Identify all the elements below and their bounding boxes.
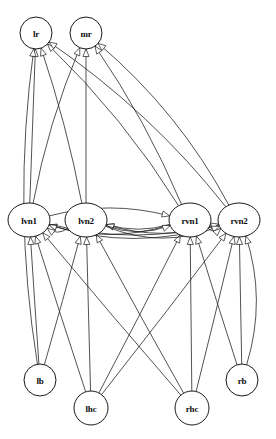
node-lr[interactable]: lr: [20, 17, 52, 49]
node-label-lr: lr: [33, 29, 39, 39]
node-lb[interactable]: lb: [24, 364, 56, 396]
node-rvn2[interactable]: rvn2: [218, 203, 260, 237]
node-mr[interactable]: mr: [70, 17, 102, 49]
node-label-rb: rb: [238, 376, 247, 386]
arrowhead-icon: [74, 48, 80, 56]
arrowhead-icon: [162, 225, 170, 231]
arrowhead-icon: [219, 233, 226, 241]
node-rvn1[interactable]: rvn1: [169, 203, 211, 237]
node-label-rvn2: rvn2: [230, 216, 248, 226]
edge-lvn1-to-mr: [33, 48, 80, 204]
edge-lvn2-to-lr: [41, 48, 82, 203]
node-label-mr: mr: [80, 29, 91, 39]
arrowhead-icon: [229, 236, 235, 244]
arrowhead-icon: [162, 211, 170, 217]
graph-diagram: lrmrlvn1lvn2rvn1rvn2lblhcrhcrb: [0, 0, 276, 439]
arrowhead-icon: [83, 49, 89, 57]
arrowhead-icon: [41, 48, 47, 56]
edge-rhc-to-rvn1: [190, 237, 192, 391]
node-label-lb: lb: [36, 376, 43, 386]
arrowhead-icon: [174, 235, 180, 243]
edge-rb-to-rvn2: [239, 237, 241, 364]
node-lvn1[interactable]: lvn1: [8, 203, 50, 237]
node-rhc[interactable]: rhc: [175, 391, 209, 425]
node-label-lhc: lhc: [86, 404, 97, 414]
edge-rb-to-rvn1: [196, 236, 237, 365]
arrowhead-icon: [84, 237, 90, 245]
edge-rvn1-to-lr: [48, 44, 179, 206]
arrowhead-icon: [35, 236, 41, 244]
node-label-lvn2: lvn2: [78, 216, 94, 226]
edge-rvn2-to-mr: [98, 43, 229, 205]
edge-rvn1-to-mr: [95, 46, 182, 204]
arrowhead-icon: [187, 237, 193, 245]
edge-rhc-to-rvn2: [196, 236, 234, 391]
node-label-lvn1: lvn1: [21, 216, 37, 226]
edge-rb-to-rvn2: [246, 236, 257, 365]
arrowhead-icon: [196, 236, 202, 244]
node-label-rvn1: rvn1: [181, 216, 199, 226]
node-lhc[interactable]: lhc: [74, 391, 108, 425]
node-label-rhc: rhc: [186, 404, 199, 414]
arrowhead-icon: [245, 236, 251, 244]
edge-lhc-to-rvn2: [102, 233, 226, 394]
arrowhead-icon: [28, 237, 34, 245]
edge-lhc-to-lvn2: [87, 237, 91, 391]
edge-lb-to-lvn2: [44, 236, 80, 364]
edge-rhc-to-lvn1: [43, 233, 181, 395]
node-lvn2[interactable]: lvn2: [65, 203, 107, 237]
arrowhead-icon: [43, 233, 50, 241]
edge-rvn2-to-lr: [49, 42, 226, 207]
node-layer: lrmrlvn1lvn2rvn1rvn2lblhcrhcrb: [8, 17, 260, 425]
arrowhead-icon: [75, 236, 81, 244]
node-rb[interactable]: rb: [226, 364, 258, 396]
arrowhead-icon: [236, 237, 242, 245]
